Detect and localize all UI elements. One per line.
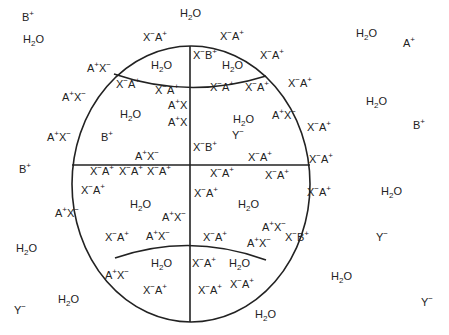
species-label-outside: H2O xyxy=(255,309,276,320)
species-label-outside: H2O xyxy=(180,8,201,19)
species-label-inside: X−A+ xyxy=(116,79,140,90)
species-label-inside: X−A+ xyxy=(192,258,216,269)
species-label-inside: H2O xyxy=(233,114,254,125)
species-label-rim: X−A+ xyxy=(307,122,331,133)
species-label-inside: X−A+ xyxy=(248,152,272,163)
species-label-rim: X−A+ xyxy=(230,279,254,290)
species-label-rim: X−A+ xyxy=(220,31,244,42)
species-label-outside: B+ xyxy=(413,120,425,131)
species-label-rim: X−A+ xyxy=(143,285,167,296)
species-label-rim: X−A+ xyxy=(309,154,333,165)
species-label-inside: A+X− xyxy=(135,151,159,162)
species-label-inside: X−A+ xyxy=(105,232,129,243)
species-label-outside: H2O xyxy=(16,243,37,254)
species-label-inside: H2O xyxy=(238,199,259,210)
species-label-rim: X−A+ xyxy=(143,32,167,43)
species-label-outside: A+ xyxy=(403,38,415,49)
species-label-inside: A+X− xyxy=(162,212,186,223)
species-label-outside: Y− xyxy=(421,297,433,308)
species-label-inside: A+X− xyxy=(247,238,271,249)
species-label-outside: H2O xyxy=(331,271,352,282)
species-label-inside: X−A+ xyxy=(210,168,234,179)
species-label-outside: B+ xyxy=(19,164,31,175)
species-label-rim: X−A+ xyxy=(260,50,284,61)
species-label-rim: X−B+ xyxy=(285,232,309,243)
species-label-inside: X−A+ xyxy=(245,82,269,93)
species-label-rim: A+X− xyxy=(62,92,86,103)
species-label-inside: A+X− xyxy=(146,231,170,242)
species-label-inside: X−B+ xyxy=(193,142,217,153)
species-label-rim: A+X− xyxy=(105,270,129,281)
species-label-outside: Y− xyxy=(14,305,26,316)
species-label-inside: X−A+ xyxy=(194,188,218,199)
species-label-inside: H2O xyxy=(151,60,172,71)
species-label-inside: A+X xyxy=(168,100,187,111)
species-label-inside: X−A+ xyxy=(119,166,143,177)
species-label-outside: B+ xyxy=(22,12,34,23)
species-label-outside: H2O xyxy=(58,294,79,305)
species-label-rim: X−A+ xyxy=(307,187,331,198)
species-label-inside: H2O xyxy=(130,199,151,210)
species-label-inside: X−B+ xyxy=(193,50,217,61)
species-label-inside: X−A+ xyxy=(265,170,289,181)
species-label-inside: X−A+ xyxy=(203,232,227,243)
species-label-rim: A+X− xyxy=(55,208,79,219)
species-label-inside: H2O xyxy=(229,258,250,269)
species-label-inside: A+X− xyxy=(272,110,296,121)
species-label-inside: X−A+ xyxy=(81,185,105,196)
species-label-inside: H2O xyxy=(222,60,243,71)
species-label-inside: H2O xyxy=(151,258,172,269)
species-label-outside: H2O xyxy=(356,28,377,39)
species-label-rim: A+X− xyxy=(87,63,111,74)
species-label-inside: H2O xyxy=(120,109,141,120)
species-label-inside: B+ xyxy=(101,132,113,143)
species-label-outside: H2O xyxy=(23,34,44,45)
species-label-rim: X−A+ xyxy=(288,78,312,89)
species-label-outside: H2O xyxy=(381,186,402,197)
species-label-inside: X−A+ xyxy=(155,85,179,96)
species-label-inside: X−A+ xyxy=(90,166,114,177)
species-label-inside: Y− xyxy=(232,130,244,141)
species-label-inside: A+X− xyxy=(262,222,286,233)
species-label-outside: H2O xyxy=(366,96,387,107)
species-label-inside: X−A+ xyxy=(147,166,171,177)
species-label-inside: X−A+ xyxy=(210,82,234,93)
species-label-outside: Y− xyxy=(376,232,388,243)
species-label-rim: A+X− xyxy=(47,132,71,143)
species-label-rim: X−A+ xyxy=(198,285,222,296)
species-label-inside: A+X xyxy=(168,117,187,128)
